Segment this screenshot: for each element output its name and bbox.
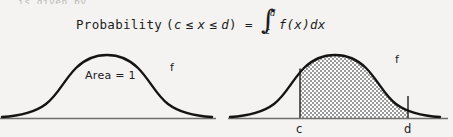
figure-page: is given by Probability(c≤x≤d)=∫dcf(x)dx…	[0, 0, 453, 137]
area-label: Area = 1	[85, 69, 136, 82]
formula-open-paren: (	[166, 17, 174, 32]
probability-formula: Probability(c≤x≤d)=∫dcf(x)dx	[76, 10, 326, 34]
shaded-area-between-c-and-d	[300, 34, 408, 119]
density-function-label-left: f	[170, 61, 174, 74]
upper-bound-label-d: d	[404, 122, 411, 136]
lower-bound-label-c: c	[296, 122, 302, 136]
formula-integrand: f(x)	[279, 17, 310, 32]
formula-differential: dx	[310, 17, 326, 32]
formula-le-2: ≤	[209, 17, 217, 32]
normal-curve-total-area-svg	[0, 34, 222, 137]
formula-var-c: c	[174, 17, 182, 32]
formula-equals: =	[245, 17, 253, 32]
formula-close-paren: )	[229, 17, 237, 32]
integral-upper-limit: d	[270, 5, 276, 21]
normal-curve-shaded-svg	[228, 34, 453, 137]
truncated-text-line: is given by	[18, 0, 86, 4]
figure-shaded-interval: f c d	[228, 34, 453, 137]
integral-group: ∫dc	[257, 10, 279, 34]
formula-le-1: ≤	[186, 17, 194, 32]
figure-total-area: Area = 1 f	[0, 34, 222, 137]
formula-lead-word: Probability	[76, 17, 162, 32]
density-curve	[2, 55, 212, 117]
formula-var-x: x	[198, 17, 206, 32]
formula-var-d: d	[221, 17, 229, 32]
density-function-label-right: f	[395, 53, 399, 66]
